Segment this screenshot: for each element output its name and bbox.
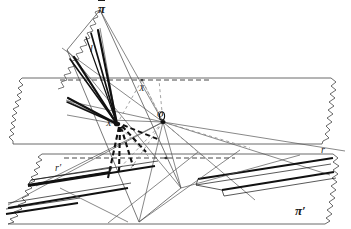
band-left-strip-upper-outline (31, 161, 158, 180)
label-point-x-upper: X (139, 84, 145, 93)
label-point-o: O (157, 110, 164, 119)
ray-o-down-left (139, 122, 163, 222)
upper-plane-group (9, 78, 336, 144)
ray-o-to-top-apex (100, 10, 163, 122)
label-plane-pi-bar-text: π (98, 2, 105, 15)
label-line-r-prime: r′ (55, 163, 61, 173)
upper-plane-ragged-right-edge (322, 78, 336, 144)
upper-plane-ragged-left-edge (9, 78, 23, 144)
point-upper-trace-marker (141, 79, 144, 81)
point-o-marker (160, 120, 165, 124)
geometry-diagram (0, 0, 351, 229)
label-plane-pi-bar: π (98, 2, 105, 15)
dashed-line-x-down-2 (119, 127, 120, 172)
projection-rays-from-o (8, 10, 345, 222)
ray-o-to-right-shallow (163, 122, 345, 151)
label-line-l: l (90, 44, 93, 54)
tilted-plane-ragged-edge-lower (58, 82, 64, 89)
point-x-marker (114, 122, 120, 127)
label-line-r: r (321, 145, 325, 155)
label-point-x-left: X (106, 119, 112, 128)
dashed-o-down-left-2 (131, 122, 163, 168)
point-lower-trace-marker (164, 157, 167, 159)
band-right-connector-c (196, 185, 222, 190)
band-left-strip-upper (28, 166, 155, 186)
figure-root: π π′ O X X l r′ r (0, 0, 351, 229)
label-plane-pi-prime: π′ (295, 204, 306, 217)
heavy-line-x-2 (91, 33, 117, 124)
band-left-strip-lowest (6, 203, 78, 214)
ray-o-to-right-far (163, 122, 330, 175)
